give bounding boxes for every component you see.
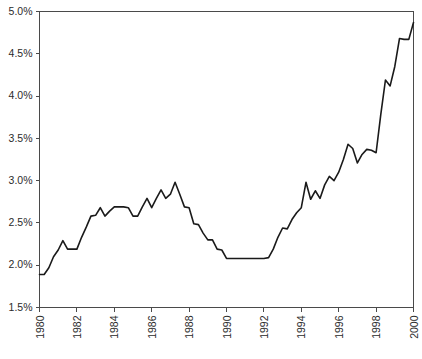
y-tick-label-3.5%: 3.5% — [9, 132, 33, 144]
y-tick-label-4.5%: 4.5% — [9, 47, 33, 59]
x-tick-label-1992: 1992 — [258, 315, 270, 339]
x-tick-label-1994: 1994 — [295, 315, 307, 339]
y-tick-label-1.5%: 1.5% — [9, 301, 33, 313]
x-tick-label-2000: 2000 — [408, 315, 420, 339]
y-tick-label-2.5%: 2.5% — [9, 216, 33, 228]
y-tick-label-4.0%: 4.0% — [9, 89, 33, 101]
y-tick-label-5.0%: 5.0% — [9, 5, 33, 17]
x-tick-label-1980: 1980 — [34, 315, 46, 339]
x-tick-label-1996: 1996 — [333, 315, 345, 339]
x-tick-label-1988: 1988 — [183, 315, 195, 339]
chart-canvas: 1.5%2.0%2.5%3.0%3.5%4.0%4.5%5.0% 1980198… — [0, 0, 422, 359]
x-tick-label-1982: 1982 — [71, 315, 83, 339]
y-axis-ticks — [36, 12, 40, 308]
x-tick-label-1984: 1984 — [108, 315, 120, 339]
line-chart-figure: 1.5%2.0%2.5%3.0%3.5%4.0%4.5%5.0% 1980198… — [0, 0, 422, 359]
y-axis-tick-labels: 1.5%2.0%2.5%3.0%3.5%4.0%4.5%5.0% — [9, 5, 33, 313]
x-axis-ticks — [40, 308, 414, 312]
y-tick-label-2.0%: 2.0% — [9, 258, 33, 270]
x-tick-label-1998: 1998 — [370, 315, 382, 339]
y-tick-label-3.0%: 3.0% — [9, 174, 33, 186]
x-tick-label-1990: 1990 — [221, 315, 233, 339]
plot-border — [40, 12, 414, 308]
x-tick-label-1986: 1986 — [146, 315, 158, 339]
x-axis-tick-labels: 1980198219841986198819901992199419961998… — [34, 315, 420, 339]
plot-frame — [40, 12, 414, 308]
data-series-group — [40, 22, 414, 274]
data-line-series-1 — [40, 22, 414, 274]
